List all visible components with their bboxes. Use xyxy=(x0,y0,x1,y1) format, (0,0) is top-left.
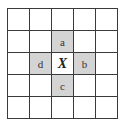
grid-cell xyxy=(7,96,29,118)
grid-cell xyxy=(29,30,51,52)
neighbor-cell-b: b xyxy=(73,52,95,74)
neighbor-cell-a: a xyxy=(51,30,73,52)
grid-cell xyxy=(7,74,29,96)
grid-cell xyxy=(95,52,117,74)
center-cell-x: X xyxy=(51,52,73,74)
neighbor-cell-d: d xyxy=(29,52,51,74)
grid-cell xyxy=(73,74,95,96)
grid-cell xyxy=(73,30,95,52)
grid-cell xyxy=(73,96,95,118)
grid-cell xyxy=(73,8,95,30)
grid-cell xyxy=(95,96,117,118)
grid-cell xyxy=(29,8,51,30)
grid-cell xyxy=(95,74,117,96)
grid-cell xyxy=(7,52,29,74)
neighbor-grid: a d X b c xyxy=(7,8,118,119)
grid-cell xyxy=(51,96,73,118)
grid-cell xyxy=(29,74,51,96)
grid-cell xyxy=(95,8,117,30)
grid-cell xyxy=(7,30,29,52)
grid-cell xyxy=(95,30,117,52)
grid-cell xyxy=(29,96,51,118)
grid-cell xyxy=(7,8,29,30)
neighbor-cell-c: c xyxy=(51,74,73,96)
grid-cell xyxy=(51,8,73,30)
